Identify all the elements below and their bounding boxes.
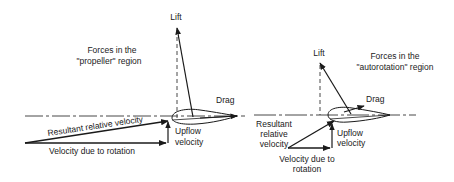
autorotation-region-title-line2: "autorotation" region (357, 62, 434, 72)
propeller-region-diagram: Forces in the "propeller" region Lift Dr… (25, 12, 245, 156)
autorotation-region-diagram: Lift Forces in the "autorotation" region… (254, 48, 434, 174)
propeller-region-title-line2: "propeller" region (76, 56, 141, 66)
resultant-velocity-label-line1: Resultant (256, 119, 293, 129)
rotation-velocity-label-line2: rotation (293, 164, 322, 174)
lift-arrow (320, 63, 351, 114)
upflow-velocity-label-line2: velocity (175, 137, 204, 147)
rotation-velocity-label: Velocity due to rotation (49, 146, 135, 156)
propeller-region-title-line1: Forces in the (87, 45, 136, 55)
upflow-velocity-label-line1: Upflow (337, 128, 364, 138)
autorotation-region-title-line1: Forces in the (370, 51, 419, 61)
resultant-velocity-label-line3: velocity (260, 139, 289, 149)
resultant-velocity-arrow (288, 121, 334, 148)
upflow-velocity-label-line2: velocity (337, 138, 366, 148)
autorotation-force-diagram: Forces in the "propeller" region Lift Dr… (0, 0, 454, 182)
drag-label: Drag (216, 95, 235, 105)
resultant-velocity-label: Resultant relative velocity (47, 114, 145, 138)
rotation-velocity-label-line1: Velocity due to (279, 154, 335, 164)
lift-arrow (177, 28, 193, 117)
lift-label: Lift (313, 48, 325, 58)
drag-label: Drag (366, 94, 385, 104)
resultant-velocity-label-line2: relative (260, 129, 288, 139)
lift-label: Lift (170, 12, 182, 22)
upflow-velocity-label-line1: Upflow (175, 126, 202, 136)
